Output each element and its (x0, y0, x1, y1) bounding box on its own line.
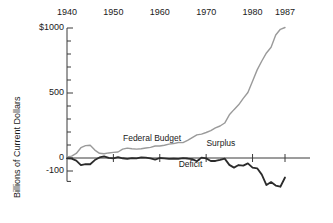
series-annotation-federal-budget: Federal Budget (123, 133, 181, 143)
federal-budget-chart: 194019501960197019801987 $10005000-100 F… (0, 0, 333, 223)
y-axis-title: Billions of Current Dollars (12, 96, 22, 198)
x-tick-label: 1960 (140, 7, 180, 17)
x-tick-label: 1970 (186, 7, 226, 17)
y-tick-label: $1000 (39, 22, 64, 32)
series-group (67, 27, 285, 186)
x-tick-label: 1950 (93, 7, 133, 17)
y-tick-label: 500 (49, 87, 64, 97)
chart-canvas (0, 0, 333, 223)
x-tick-label: 1987 (265, 7, 305, 17)
x-tick-label: 1940 (47, 7, 87, 17)
series-annotation-deficit: Deficit (179, 159, 203, 169)
series-annotation-surplus: Surplus (206, 138, 235, 148)
y-tick-label: -100 (46, 165, 64, 175)
y-tick-label: 0 (59, 152, 64, 162)
